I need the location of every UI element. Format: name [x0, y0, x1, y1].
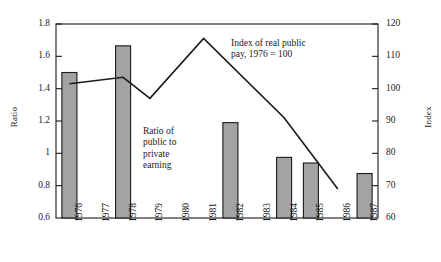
plot-frame	[56, 24, 378, 218]
left-tick-label: 1.6	[14, 50, 50, 60]
right-axis-title: Index	[423, 97, 433, 137]
right-tick-label: 100	[386, 83, 400, 93]
bar	[62, 73, 77, 219]
x-tick-label: 1986	[342, 203, 352, 222]
x-tick-label: 1978	[128, 203, 138, 222]
x-tick-label: 1984	[289, 203, 299, 222]
right-tick-label: 90	[386, 115, 396, 125]
x-tick-label: 1983	[262, 203, 272, 222]
left-tick-label: 1.8	[14, 18, 50, 28]
left-tick-label: 1.2	[14, 115, 50, 125]
right-tick-label: 70	[386, 180, 396, 190]
left-tick-label: 0.8	[14, 180, 50, 190]
bar	[116, 46, 131, 218]
right-tick-label: 110	[386, 50, 400, 60]
x-tick-label: 1976	[74, 203, 84, 222]
x-tick-label: 1987	[369, 203, 379, 222]
x-tick-label: 1982	[235, 203, 245, 222]
x-tick-label: 1977	[101, 203, 111, 222]
right-tick-label: 120	[386, 18, 400, 28]
right-tick-label: 60	[386, 212, 396, 222]
ratio-annotation: Ratio of public to private earning	[143, 126, 177, 172]
left-tick-label: 1	[14, 147, 50, 157]
right-tick-label: 80	[386, 147, 396, 157]
x-tick-label: 1979	[154, 203, 164, 222]
chart-plot-area	[0, 0, 441, 262]
left-tick-label: 0.6	[14, 212, 50, 222]
x-tick-label: 1985	[315, 203, 325, 222]
left-tick-label: 1.4	[14, 83, 50, 93]
x-tick-label: 1980	[181, 203, 191, 222]
index-annotation: Index of real public pay, 1976 = 100	[231, 38, 306, 61]
x-tick-label: 1981	[208, 203, 218, 222]
chart-figure: Ratio Index 1.81.61.41.210.80.6 12011010…	[0, 0, 441, 262]
